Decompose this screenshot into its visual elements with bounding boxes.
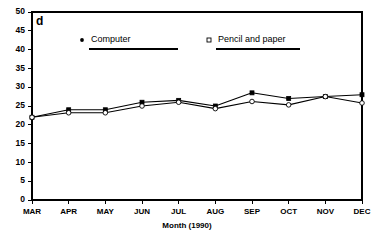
series-line: [32, 97, 362, 118]
data-point-marker: [140, 104, 145, 109]
line-chart: 05101520253035404550 MARAPRMAYJUNJULAUGS…: [0, 0, 374, 233]
x-axis-tick-labels: MARAPRMAYJUNJULAUGSEPOCTNOVDEC: [23, 207, 371, 216]
data-point-marker: [103, 110, 108, 115]
data-point-marker: [30, 115, 35, 120]
y-tick-label: 10: [16, 157, 26, 167]
data-point-marker: [213, 106, 218, 111]
legend-item-1[interactable]: Computer: [80, 34, 178, 49]
data-point-marker: [323, 94, 328, 99]
filled-dot-icon: [80, 38, 84, 42]
series-pencil-and-paper: [30, 94, 365, 119]
legend-item-2[interactable]: Pencil and paper: [207, 34, 300, 49]
data-point-marker: [360, 101, 365, 106]
data-series-layer: [30, 91, 365, 120]
data-point-marker: [360, 93, 364, 97]
x-axis-title: Month (1990): [162, 221, 212, 230]
x-tick-label: SEP: [244, 207, 261, 216]
x-tick-label: MAY: [97, 207, 115, 216]
data-point-marker: [286, 103, 291, 108]
y-tick-label: 20: [16, 119, 26, 129]
data-point-marker: [250, 99, 255, 104]
panel-letter: d: [36, 14, 43, 28]
x-tick-label: NOV: [317, 207, 335, 216]
y-tick-label: 35: [16, 63, 26, 73]
y-tick-label: 50: [16, 6, 26, 16]
legend-label: Computer: [91, 34, 131, 44]
y-axis-ticks: [28, 12, 32, 200]
x-tick-label: APR: [60, 207, 77, 216]
x-tick-label: MAR: [23, 207, 41, 216]
y-tick-label: 40: [16, 44, 26, 54]
chart-container: 05101520253035404550 MARAPRMAYJUNJULAUGS…: [0, 0, 374, 233]
x-tick-label: DEC: [354, 207, 371, 216]
y-tick-label: 0: [20, 194, 25, 204]
x-tick-label: JUL: [171, 207, 186, 216]
legend-label: Pencil and paper: [218, 34, 286, 44]
chart-legend: ComputerPencil and paper: [80, 34, 300, 49]
data-point-marker: [66, 110, 71, 115]
y-tick-label: 45: [16, 25, 26, 35]
x-axis-ticks: [32, 200, 362, 204]
y-tick-label: 25: [16, 100, 26, 110]
x-tick-label: AUG: [206, 207, 224, 216]
data-point-marker: [176, 100, 181, 105]
y-tick-label: 30: [16, 81, 26, 91]
y-tick-label: 5: [20, 175, 25, 185]
y-axis-tick-labels: 05101520253035404550: [16, 6, 26, 204]
x-tick-label: JUN: [134, 207, 150, 216]
data-point-marker: [250, 91, 254, 95]
data-point-marker: [287, 96, 291, 100]
open-square-icon: [207, 38, 211, 42]
x-tick-label: OCT: [280, 207, 297, 216]
y-tick-label: 15: [16, 138, 26, 148]
